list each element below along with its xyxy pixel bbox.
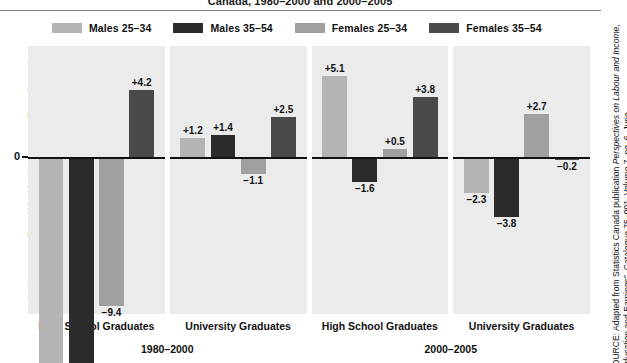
bar [99, 157, 124, 306]
bar [352, 157, 377, 182]
bar [271, 117, 296, 157]
x-axis-category-label: University Graduates [170, 320, 307, 334]
source-divider [577, 10, 601, 11]
legend-swatch [52, 23, 82, 33]
x-axis-category-label: University Graduates [453, 320, 590, 334]
bar-slot: −3.8 [491, 46, 521, 314]
legend-label: Males 25–34 [89, 22, 151, 34]
x-axis-group-labels: 1980–20002000–2005 [28, 343, 590, 357]
zero-baseline [312, 157, 449, 159]
bar-group: −2.3−3.8+2.7−0.2 [453, 46, 590, 314]
bar-slot: +3.8 [410, 46, 440, 314]
bar-slot: −19.8 [36, 46, 66, 314]
bar-slot: +0.5 [380, 46, 410, 314]
bar [129, 90, 154, 157]
bar-value-label: −1.1 [238, 175, 268, 186]
bar-value-label: +0.5 [380, 136, 410, 147]
bar-value-label: −3.8 [491, 218, 521, 229]
bar-value-label: −0.2 [552, 161, 582, 172]
x-axis-category-labels: High School GraduatesUniversity Graduate… [28, 320, 590, 334]
bar [524, 114, 549, 157]
bar-value-label: +3.8 [410, 84, 440, 95]
bar-slot: +4.2 [127, 46, 157, 314]
bar-slot: +1.4 [208, 46, 238, 314]
bar-slot: +2.5 [268, 46, 298, 314]
bar-slot: +5.1 [320, 46, 350, 314]
bar-value-label: −2.3 [461, 194, 491, 205]
chart-figure: Canada, 1980–2000 and 2000–2005 Males 25… [0, 0, 627, 363]
bar [322, 76, 347, 157]
bar [69, 157, 94, 363]
legend-label: Females 35–54 [466, 22, 541, 34]
bar [464, 157, 489, 193]
bar [211, 135, 236, 157]
bar-slot: −9.4 [96, 46, 126, 314]
bar-slot: −1.1 [238, 46, 268, 314]
bar [383, 149, 408, 157]
legend-item: Males 35–54 [173, 22, 272, 34]
bar-slot: +2.7 [522, 46, 552, 314]
legend-swatch [295, 23, 325, 33]
bar-slot: −2.3 [461, 46, 491, 314]
bar [494, 157, 519, 217]
source-note-area: SOURCE: Adapted from Statistics Canada p… [594, 0, 627, 363]
bar-group: +5.1−1.6+0.5+3.8 [312, 46, 449, 314]
zero-baseline [28, 157, 165, 159]
bar-value-label: +2.7 [522, 101, 552, 112]
legend-item: Females 35–54 [429, 22, 541, 34]
bar [180, 138, 205, 157]
bar-slot: +1.2 [178, 46, 208, 314]
plot-area: −19.8−14.4−9.4+4.2+1.2+1.4−1.1+2.5+5.1−1… [28, 46, 590, 314]
legend-item: Males 25–34 [52, 22, 151, 34]
legend-swatch [173, 23, 203, 33]
chart-title: Canada, 1980–2000 and 2000–2005 [0, 0, 600, 7]
source-prefix: SOURCE: Adapted from Statistics Canada p… [611, 164, 621, 363]
bar [39, 157, 64, 363]
legend-label: Males 35–54 [210, 22, 272, 34]
bar [241, 157, 266, 174]
source-note: SOURCE: Adapted from Statistics Canada p… [611, 12, 627, 363]
legend-swatch [429, 23, 459, 33]
x-axis-category-label: High School Graduates [312, 320, 449, 334]
zero-baseline [170, 157, 307, 159]
chart-legend: Males 25–34Males 35–54Females 25–34Femal… [52, 20, 564, 36]
bar-value-label: −9.4 [96, 307, 126, 318]
bar-value-label: +5.1 [320, 63, 350, 74]
bar-value-label: +1.2 [178, 125, 208, 136]
bar [413, 97, 438, 157]
bar-value-label: +4.2 [127, 77, 157, 88]
bar-slot: −14.4 [66, 46, 96, 314]
x-axis-group-label: 2000–2005 [312, 343, 591, 357]
bar-group: +1.2+1.4−1.1+2.5 [170, 46, 307, 314]
bar-value-label: −1.6 [350, 183, 380, 194]
bar-slot: −0.2 [552, 46, 582, 314]
legend-label: Females 25–34 [332, 22, 407, 34]
bar-value-label: +1.4 [208, 122, 238, 133]
zero-tick-label: 0 [14, 150, 20, 162]
bar-group: −19.8−14.4−9.4+4.2 [28, 46, 165, 314]
chart-panel: −2.3−3.8+2.7−0.2 [453, 46, 590, 314]
chart-panel: −19.8−14.4−9.4+4.2 [28, 46, 165, 314]
chart-panel: +5.1−1.6+0.5+3.8 [312, 46, 449, 314]
title-divider [0, 10, 601, 11]
bar-slot: −1.6 [350, 46, 380, 314]
chart-panel: +1.2+1.4−1.1+2.5 [170, 46, 307, 314]
legend-item: Females 25–34 [295, 22, 407, 34]
source-publication: Perspectives on Labour and Income [611, 27, 621, 165]
zero-baseline [453, 157, 590, 159]
bar-value-label: +2.5 [268, 104, 298, 115]
